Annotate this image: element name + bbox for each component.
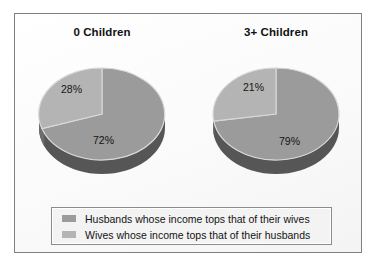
pie-slice-value-label: 72% <box>93 134 114 146</box>
pie-graphic <box>39 56 165 172</box>
pie-panel-title: 3+ Children <box>189 26 363 38</box>
pie-panel-3plus-children: 3+ Children 21% 79% <box>189 14 363 210</box>
legend-swatch-icon <box>62 215 76 222</box>
pie-slice-value-label: 28% <box>61 83 82 95</box>
pie-chart-3plus-children: 21% 79% <box>213 56 339 172</box>
chart-frame: 0 Children 28% 72% 3+ Children <box>14 13 362 253</box>
pie-panel-0-children: 0 Children 28% 72% <box>15 14 189 210</box>
legend-item-husbands: Husbands whose income tops that of their… <box>62 210 310 227</box>
chart-legend: Husbands whose income tops that of their… <box>51 207 332 245</box>
pie-slice-minor <box>213 68 276 121</box>
legend-item-wives: Wives whose income tops that of their hu… <box>62 226 310 243</box>
legend-item-label: Husbands whose income tops that of their… <box>85 213 310 225</box>
legend-swatch-icon <box>62 231 76 238</box>
pie-graphic <box>213 56 339 172</box>
pie-slice-value-label: 21% <box>243 81 264 93</box>
pie-panel-title: 0 Children <box>15 26 189 38</box>
legend-item-label: Wives whose income tops that of their hu… <box>85 229 310 241</box>
pie-chart-0-children: 28% 72% <box>39 56 165 172</box>
pie-slice-value-label: 79% <box>279 135 300 147</box>
